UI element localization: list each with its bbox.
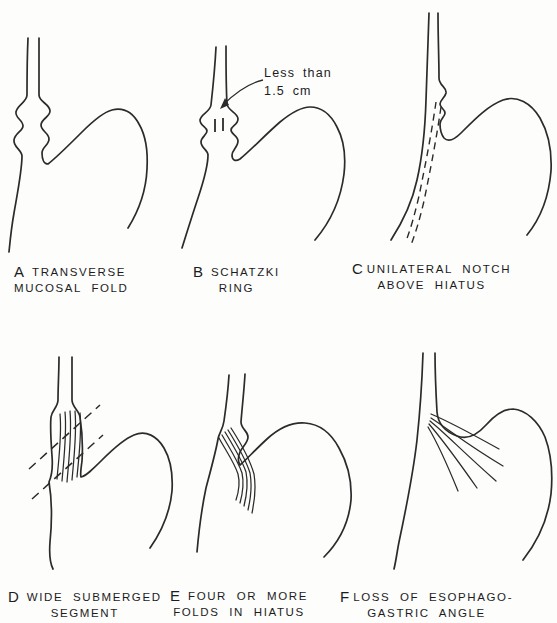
caption-f: F LOSS OF ESOPHAGO- GASTRIC ANGLE [340, 590, 513, 620]
caption-letter-d: D [8, 590, 19, 604]
caption-a-line2: MUCOSAL FOLD [14, 282, 129, 295]
diagram-d-wide-submerged-segment [0, 310, 190, 623]
mucosal-fold-line-5 [77, 413, 81, 477]
diagram-f-loss-of-esophagogastric-angle [370, 310, 557, 623]
mucosal-fold-line-3 [67, 411, 71, 482]
mucosal-fold-line-1 [57, 414, 61, 479]
caption-letter-c: C [352, 262, 363, 276]
mucosal-fold-line-4 [72, 411, 76, 480]
esophagus-stomach-contour [72, 357, 172, 548]
caption-letter-a: A [14, 265, 24, 279]
caption-c-line1: UNILATERAL NOTCH [367, 263, 511, 276]
esophagus-stomach-contour [239, 374, 352, 557]
caption-d-line1: WIDE SUBMERGED [27, 591, 162, 604]
caption-c-line2: ABOVE HIATUS [352, 279, 511, 292]
esophagus-left-contour [49, 357, 59, 569]
caption-e-line1: FOUR OR MORE [188, 590, 308, 603]
dashed-fold-line-1 [406, 102, 436, 241]
measurement-annotation-line2: 1.5 cm [264, 82, 332, 100]
caption-e: E FOUR OR MORE FOLDS IN HIATUS [170, 589, 308, 619]
esophagus-left-contour [394, 353, 423, 569]
caption-f-line1: LOSS OF ESOPHAGO- [353, 591, 513, 604]
caption-b: B SCHATZKI RING [193, 265, 280, 295]
caption-letter-b: B [193, 265, 203, 279]
mucosal-fold-line-2 [431, 418, 503, 466]
caption-b-line1: SCHATZKI [211, 266, 280, 279]
caption-f-line2: GASTRIC ANGLE [340, 607, 513, 620]
caption-letter-f: F [340, 590, 349, 604]
caption-e-line2: FOLDS IN HIATUS [170, 606, 308, 619]
measurement-annotation: Less than 1.5 cm [264, 64, 332, 100]
measurement-annotation-line1: Less than [264, 64, 332, 82]
diagram-e-folds-in-hiatus [190, 310, 380, 623]
esophagus-stomach-contour [39, 38, 147, 228]
esophagus-left-contour [197, 375, 229, 552]
caption-letter-e: E [170, 589, 180, 603]
dashed-fold-line-2 [411, 107, 441, 245]
diaphragm-dashed-line-lower [32, 435, 103, 499]
caption-c: C UNILATERAL NOTCH ABOVE HIATUS [352, 262, 511, 292]
caption-a: A TRANSVERSE MUCOSAL FOLD [14, 265, 129, 295]
caption-b-line2: RING [193, 282, 280, 295]
mucosal-fold-line-5 [428, 427, 458, 491]
caption-d: D WIDE SUBMERGED SEGMENT [8, 590, 162, 620]
figure-esophagogastric-junction-criteria: Less than 1.5 cm A TRANSVERSE MUCOSAL FO… [0, 0, 557, 623]
esophagus-left-contour [9, 38, 28, 252]
mucosal-fold-line-2 [62, 412, 66, 481]
caption-a-line1: TRANSVERSE [32, 266, 126, 279]
esophagus-stomach-contour [435, 353, 552, 560]
esophagus-stomach-contour [438, 13, 551, 235]
diagram-a-transverse-mucosal-fold [0, 0, 190, 310]
caption-d-line2: SEGMENT [8, 607, 162, 620]
annotation-arrow-line [223, 80, 263, 105]
